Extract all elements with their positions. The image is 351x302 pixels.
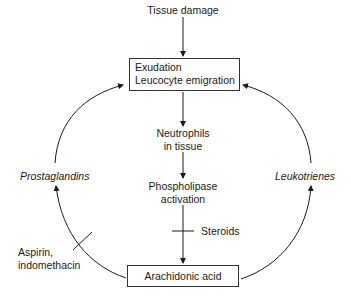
neutrophils-line2: in tissue (156, 140, 209, 153)
phospholipase-line2: activation (149, 193, 218, 206)
inhibitor-aspirin-indomethacin: Aspirin, indomethacin (18, 246, 80, 272)
node-tissue-damage: Tissue damage (147, 4, 218, 17)
node-neutrophils: Neutrophils in tissue (156, 127, 209, 153)
arrow-arachidonic-to-leukotrienes (241, 186, 311, 279)
nsaids-line1: Aspirin, (18, 246, 80, 259)
phospholipase-line1: Phospholipase (149, 180, 218, 193)
nsaids-line2: indomethacin (18, 259, 80, 272)
exudation-line1: Exudation (135, 61, 239, 74)
node-arachidonic-acid: Arachidonic acid (127, 265, 239, 287)
inhibitor-steroids: Steroids (201, 225, 240, 238)
exudation-line2: Leucocyte emigration (135, 74, 239, 87)
node-exudation-box: Exudation Leucocyte emigration (129, 58, 240, 91)
arrow-prostaglandins-to-exudation (55, 85, 123, 163)
node-leukotrienes: Leukotrienes (275, 170, 335, 183)
neutrophils-line1: Neutrophils (156, 127, 209, 140)
arrow-leukotrienes-to-exudation (243, 85, 311, 163)
node-prostaglandins: Prostaglandins (20, 170, 89, 183)
node-phospholipase: Phospholipase activation (149, 180, 218, 206)
